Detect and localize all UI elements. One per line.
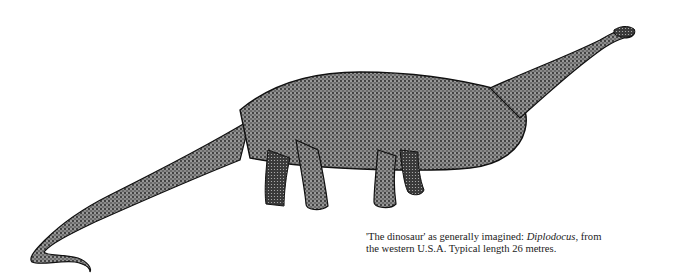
caption-species: Diplodocus <box>527 231 576 242</box>
tail <box>31 120 250 272</box>
neck <box>490 28 635 118</box>
figure-caption: 'The dinosaur' as generally imagined: Di… <box>366 231 676 254</box>
page: 'The dinosaur' as generally imagined: Di… <box>0 0 680 278</box>
caption-line-2: the western U.S.A. Typical length 26 met… <box>366 243 556 254</box>
rear-leg-far <box>265 150 290 206</box>
caption-text-1: 'The dinosaur' as generally imagined: <box>366 231 527 242</box>
caption-text-2: , from <box>575 231 601 242</box>
front-leg-near <box>374 150 396 208</box>
head <box>614 26 635 37</box>
